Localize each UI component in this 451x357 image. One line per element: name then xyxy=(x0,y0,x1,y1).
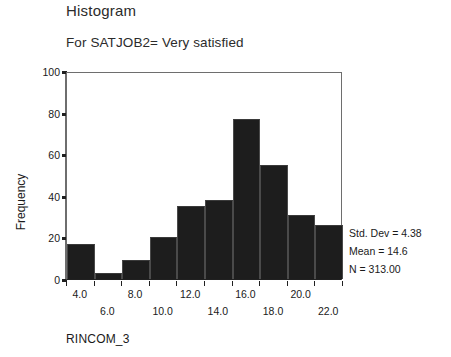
plot-area xyxy=(66,72,342,280)
x-axis-tick-label: 22.0 xyxy=(318,305,338,317)
y-axis-title: Frequency xyxy=(14,162,28,242)
x-axis-tick xyxy=(314,281,315,286)
y-axis-tick-label: 100 xyxy=(34,66,60,78)
x-axis-tick xyxy=(121,281,122,286)
x-axis-title: RINCOM_3 xyxy=(66,332,130,346)
y-axis-tick-label: 0 xyxy=(34,274,60,286)
y-axis-tick-label: 60 xyxy=(34,149,60,161)
histogram-bar xyxy=(177,206,205,279)
y-axis-tick-label: 20 xyxy=(34,232,60,244)
y-axis-tick-label: 80 xyxy=(34,108,60,120)
chart-title: Histogram xyxy=(66,2,136,19)
histogram-bar xyxy=(288,215,316,279)
x-axis-tick xyxy=(176,281,177,286)
x-axis-tick-label: 16.0 xyxy=(235,288,255,300)
stat-std-dev: Std. Dev = 4.38 xyxy=(349,224,449,242)
histogram-bar xyxy=(67,244,95,279)
x-axis-tick xyxy=(342,281,343,286)
x-axis-tick-label: 10.0 xyxy=(152,305,172,317)
histogram-bar xyxy=(95,273,123,279)
x-axis-tick xyxy=(232,281,233,286)
histogram-bar xyxy=(233,119,261,279)
histogram-bar xyxy=(205,200,233,279)
x-axis-tick xyxy=(94,281,95,286)
x-axis-tick-label: 4.0 xyxy=(72,288,87,300)
x-axis-tick xyxy=(149,281,150,286)
x-axis-tick-label: 6.0 xyxy=(100,305,115,317)
x-axis-tick xyxy=(259,281,260,286)
x-axis-tick-label: 8.0 xyxy=(128,288,143,300)
x-axis-tick xyxy=(287,281,288,286)
x-axis-tick-label: 12.0 xyxy=(180,288,200,300)
histogram-bar xyxy=(260,165,288,279)
x-axis-tick-label: 18.0 xyxy=(263,305,283,317)
histogram-figure: Histogram For SATJOB2= Very satisfied 02… xyxy=(0,0,451,357)
y-axis-tick-label: 40 xyxy=(34,191,60,203)
chart-subtitle: For SATJOB2= Very satisfied xyxy=(66,35,244,50)
statistics-annotation: Std. Dev = 4.38 Mean = 14.6 N = 313.00 xyxy=(349,224,449,278)
bars-layer xyxy=(67,73,341,279)
stat-mean: Mean = 14.6 xyxy=(349,242,449,260)
histogram-bar xyxy=(122,260,150,279)
x-axis-tick-label: 20.0 xyxy=(290,288,310,300)
x-axis-tick xyxy=(204,281,205,286)
x-axis-tick xyxy=(66,281,67,286)
x-axis-tick-label: 14.0 xyxy=(208,305,228,317)
histogram-bar xyxy=(315,225,343,279)
histogram-bar xyxy=(150,237,178,279)
stat-n: N = 313.00 xyxy=(349,260,449,278)
